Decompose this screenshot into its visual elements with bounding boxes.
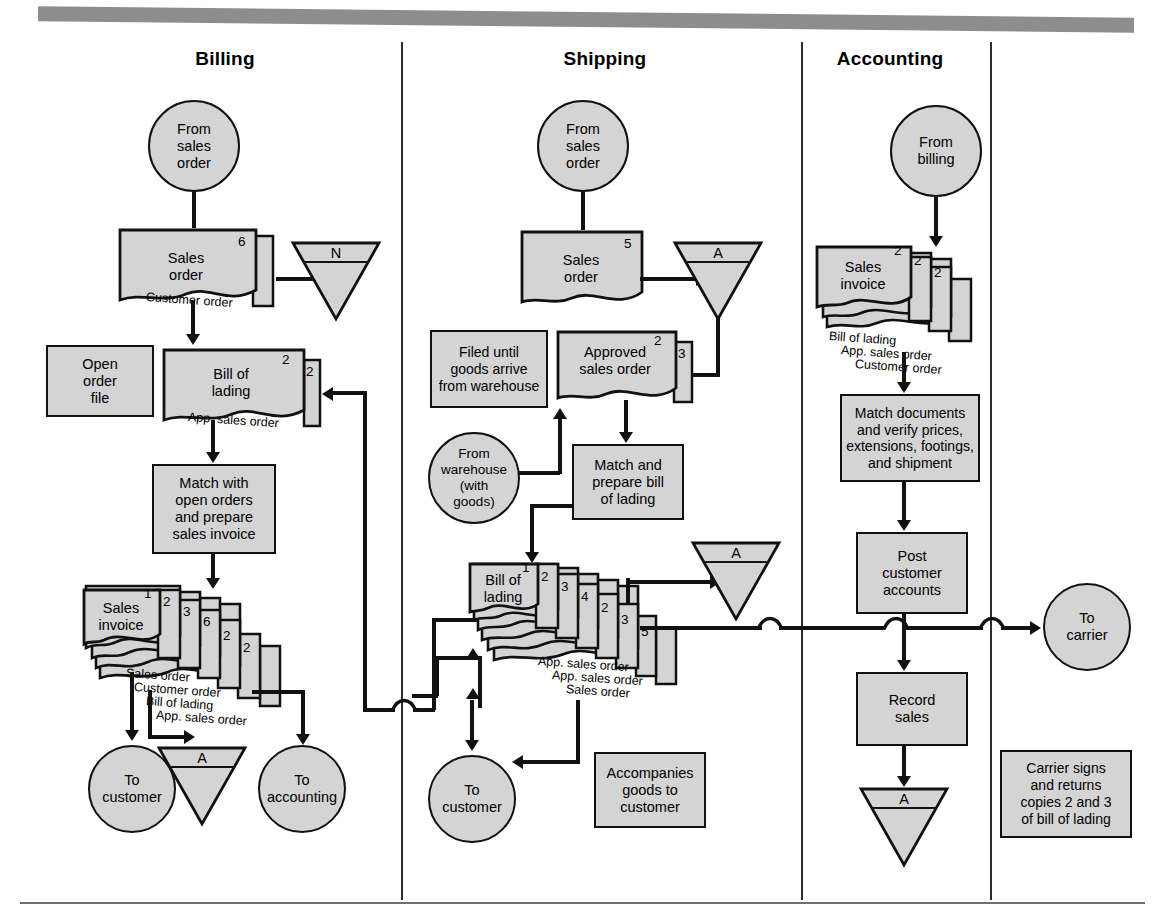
- arrowhead: [1030, 621, 1041, 635]
- shipping-file-a-mid: A: [690, 540, 782, 622]
- accounting-to-carrier: To carrier: [1043, 583, 1131, 671]
- document-title: Sales order: [118, 250, 254, 284]
- arrowhead: [512, 755, 523, 769]
- connector: [191, 300, 195, 338]
- connector: [558, 418, 562, 474]
- file-label: A: [156, 750, 248, 766]
- file-label: N: [290, 245, 382, 261]
- shipping-accompanies-note: Accompanies goods to customer: [594, 752, 706, 828]
- copy-number: 2: [282, 352, 290, 367]
- connector: [301, 690, 305, 738]
- file-label: A: [858, 791, 950, 807]
- file-label: A: [690, 545, 782, 561]
- billing-from-sales-order: From sales order: [148, 100, 240, 192]
- document-title: Bill of lading: [162, 366, 300, 400]
- connector: [470, 700, 474, 744]
- arrowhead: [206, 452, 220, 463]
- arrowhead: [897, 660, 911, 671]
- accounting-carrier-note: Carrier signs and returns copies 2 and 3…: [1000, 750, 1132, 838]
- connector: [902, 482, 906, 524]
- document-title: Sales order: [520, 252, 642, 286]
- copy-number: 2: [601, 600, 609, 615]
- copy-number: 4: [581, 589, 589, 604]
- copy-number: 2: [894, 243, 902, 258]
- copy-number: 2: [654, 333, 662, 348]
- line-hop: [758, 615, 782, 635]
- shipping-approved-sales-order-document: Approved sales order 2 3: [556, 330, 706, 418]
- connector: [902, 746, 906, 780]
- connector: [530, 504, 534, 558]
- connector: [363, 708, 395, 712]
- connector: [518, 471, 560, 475]
- column-header-shipping: Shipping: [557, 48, 653, 70]
- copy-number: 2: [934, 265, 942, 280]
- copy-number: 1: [144, 586, 152, 601]
- connector: [530, 504, 574, 508]
- copy-number: 2: [163, 594, 171, 609]
- billing-file-n: N: [290, 240, 382, 322]
- billing-sales-order-document: Sales order 6 Customer order: [118, 228, 278, 316]
- copy-number: 3: [621, 612, 629, 627]
- document-title: Bill of lading: [468, 572, 538, 606]
- connector: [576, 700, 580, 762]
- copy-number: 5: [624, 236, 632, 251]
- connector: [902, 352, 906, 386]
- column-divider-1: [401, 42, 403, 900]
- file-label: A: [672, 245, 764, 261]
- column-header-accounting: Accounting: [835, 48, 945, 70]
- copy-number: 2: [223, 628, 231, 643]
- connector: [192, 190, 196, 228]
- top-gray-bar: [38, 6, 1134, 32]
- arrowhead: [466, 648, 480, 659]
- copy-number: 3: [183, 604, 191, 619]
- copy-number: 3: [678, 346, 686, 361]
- connector: [412, 694, 438, 698]
- billing-match-process: Match with open orders and prepare sales…: [152, 464, 276, 554]
- shipping-from-warehouse: From warehouse (with goods): [428, 432, 520, 524]
- arrowhead: [184, 730, 195, 744]
- copy-number: 1: [522, 560, 530, 575]
- document-title: Sales invoice: [815, 259, 911, 293]
- copy-number: 2: [541, 569, 549, 584]
- arrowhead: [619, 432, 633, 443]
- connector: [1001, 626, 1033, 630]
- connector: [148, 690, 152, 738]
- connector: [716, 318, 720, 376]
- copy-number: 2: [914, 253, 922, 268]
- flowchart-figure: Billing Shipping Accounting From sales o…: [0, 0, 1169, 923]
- accounting-match-documents: Match documents and verify prices, exten…: [840, 394, 980, 482]
- bottom-rule: [20, 902, 1145, 904]
- billing-open-order-file: Open order file: [46, 345, 154, 417]
- connector: [478, 656, 482, 708]
- shipping-to-customer: To customer: [428, 755, 516, 843]
- copy-number: 6: [238, 234, 246, 249]
- connector: [581, 190, 585, 230]
- connector: [522, 760, 580, 764]
- arrowhead: [465, 740, 479, 751]
- accounting-file-a: A: [858, 786, 950, 868]
- copy-number: 6: [203, 614, 211, 629]
- shipping-match-prepare-bol: Match and prepare bill of lading: [572, 444, 684, 520]
- line-hop: [392, 697, 416, 717]
- copy-number: 2: [243, 640, 251, 655]
- arrowhead: [897, 382, 911, 393]
- billing-sales-invoice-document: Sales invoice 1 2 3 6 2 2 Sales order Cu…: [82, 588, 332, 718]
- document-title: Sales invoice: [82, 600, 160, 634]
- connector: [211, 420, 215, 456]
- arrowhead: [296, 734, 310, 745]
- accounting-record-sales: Record sales: [856, 672, 968, 746]
- arrowhead: [466, 688, 480, 699]
- accounting-from-billing: From billing: [890, 105, 982, 197]
- document-title: Approved sales order: [556, 344, 674, 378]
- accounting-post-customer-accounts: Post customer accounts: [856, 532, 968, 614]
- connector: [905, 626, 983, 630]
- arrowhead: [186, 334, 200, 345]
- connector: [934, 196, 938, 240]
- arrowhead: [125, 730, 139, 741]
- connector: [252, 690, 304, 694]
- connector: [130, 672, 134, 734]
- connector: [435, 656, 439, 696]
- billing-to-accounting: To accounting: [258, 745, 346, 833]
- column-header-billing: Billing: [185, 48, 265, 70]
- connector: [148, 735, 186, 739]
